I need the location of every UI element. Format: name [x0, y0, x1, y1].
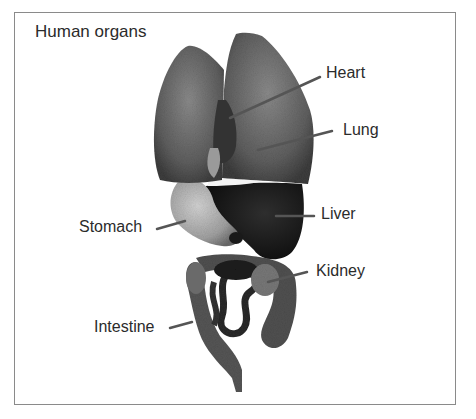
label-heart: Heart — [326, 64, 365, 82]
label-kidney: Kidney — [316, 262, 365, 280]
label-stomach: Stomach — [79, 218, 142, 236]
label-lung: Lung — [343, 121, 379, 139]
intestine-leader-line — [170, 322, 192, 328]
kidney-left-shape — [186, 262, 206, 294]
organs-illustration — [0, 0, 476, 419]
label-intestine: Intestine — [94, 318, 154, 336]
label-liver: Liver — [321, 205, 356, 223]
lung-right-shape — [222, 33, 314, 184]
